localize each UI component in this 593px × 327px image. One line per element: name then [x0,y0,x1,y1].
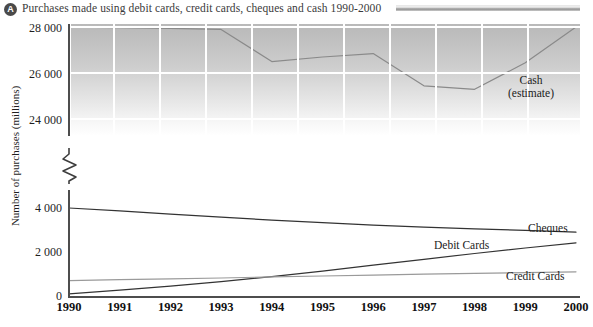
gridline-v-1992 [159,24,161,136]
gridline-v-1999 [481,24,483,136]
chart-title: Purchases made using debit cards, credit… [22,2,381,14]
gridline-h-24000 [69,118,580,120]
gridline-v-1995 [297,24,299,136]
x-tick-1991: 1991 [91,300,149,315]
x-tick-1990: 1990 [40,300,98,315]
gridline-h-28000 [69,26,580,28]
gridline-v-1993 [205,24,207,136]
gridline-v-1991 [113,24,115,136]
y-tick-28000: 28 000 [0,21,62,36]
chart-header: A Purchases made using debit cards, cred… [0,0,580,20]
gridline-v-1996 [343,24,345,136]
x-tick-1995: 1995 [294,300,352,315]
x-tick-1998: 1998 [446,300,504,315]
plot-area-lower [69,190,580,296]
series-label-debit-cards: Debit Cards [434,239,489,251]
x-tick-1992: 1992 [141,300,199,315]
series-lines-lower [69,190,580,296]
plot-area-upper [69,24,580,136]
x-tick-1997: 1997 [395,300,453,315]
gridline-v-1998 [435,24,437,136]
axis-break-icon [60,148,80,184]
y-axis-lower [68,190,70,297]
x-tick-2000: 2000 [547,300,593,315]
x-tick-1999: 1999 [496,300,554,315]
panel-letter-badge: A [4,3,17,16]
header-rule [396,5,580,11]
y-axis-label: Number of purchases (millions) [9,51,21,261]
gridline-h-26000 [69,72,580,74]
x-tick-1996: 1996 [344,300,402,315]
x-tick-1993: 1993 [192,300,250,315]
x-tick-1994: 1994 [243,300,301,315]
series-label-cash: Cash (estimate) [508,74,554,99]
series-label-cheques: Cheques [528,222,568,234]
series-label-credit-cards: Credit Cards [506,270,564,282]
y-axis-upper [68,24,70,136]
gridline-v-1994 [251,24,253,136]
x-axis [68,296,580,298]
gridline-v-1997 [389,24,391,136]
